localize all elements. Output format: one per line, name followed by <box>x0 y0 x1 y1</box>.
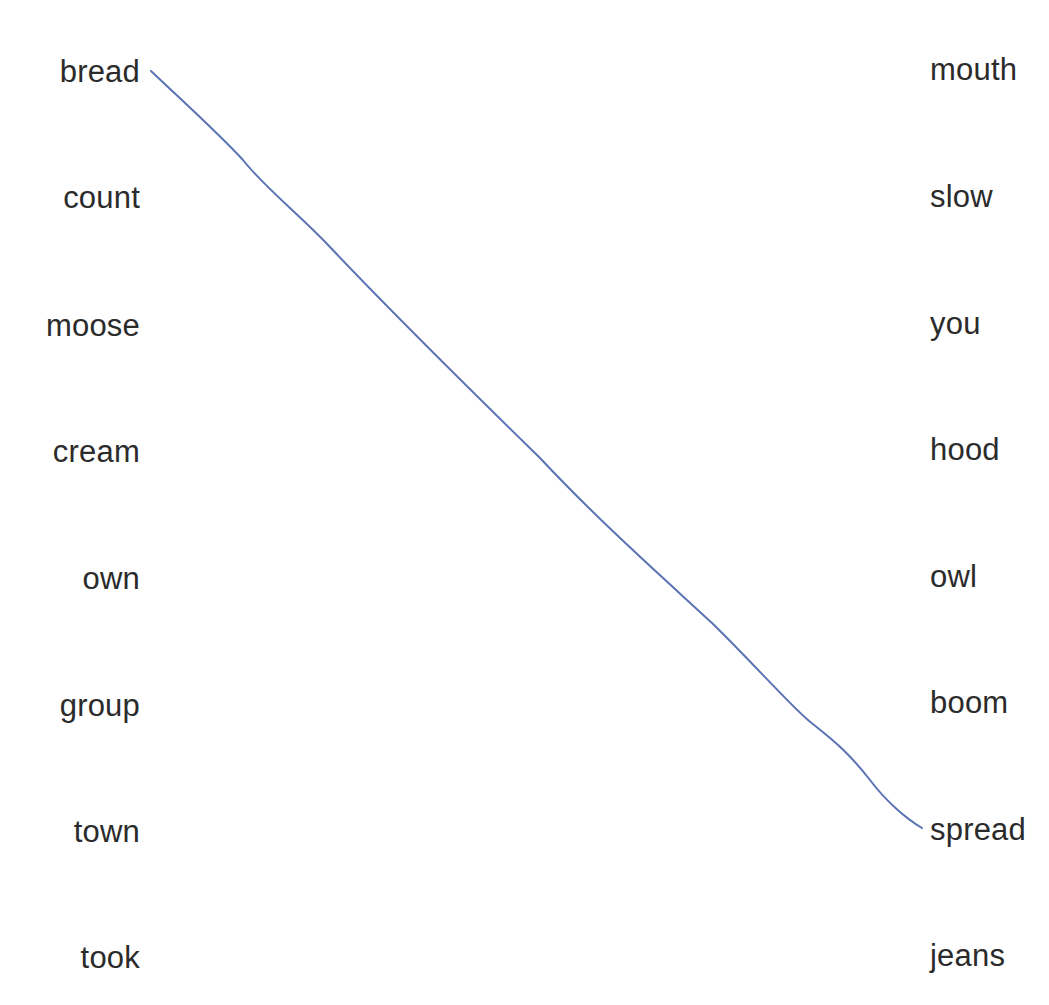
left-word-cream[interactable]: cream <box>53 432 140 472</box>
right-word-slow[interactable]: slow <box>930 177 993 217</box>
connection-layer <box>0 0 1049 1005</box>
connection-line-bread-spread <box>151 71 922 828</box>
right-word-mouth[interactable]: mouth <box>930 50 1017 90</box>
left-word-town[interactable]: town <box>74 812 140 852</box>
left-word-own[interactable]: own <box>83 559 140 599</box>
right-word-boom[interactable]: boom <box>930 683 1008 723</box>
left-word-group[interactable]: group <box>60 686 140 726</box>
right-word-owl[interactable]: owl <box>930 557 977 597</box>
left-word-took[interactable]: took <box>81 938 140 978</box>
right-word-hood[interactable]: hood <box>930 430 1000 470</box>
left-word-bread[interactable]: bread <box>60 52 140 92</box>
left-word-moose[interactable]: moose <box>46 306 140 346</box>
left-word-count[interactable]: count <box>63 178 140 218</box>
right-word-you[interactable]: you <box>930 304 981 344</box>
right-word-spread[interactable]: spread <box>930 810 1026 850</box>
right-word-jeans[interactable]: jeans <box>930 936 1005 976</box>
